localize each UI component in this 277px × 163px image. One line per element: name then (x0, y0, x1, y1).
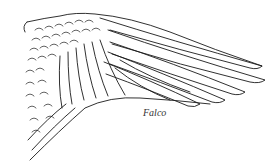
wing-figure: Falco (0, 0, 277, 163)
wing-illustration-icon (0, 0, 277, 163)
figure-caption: Falco (143, 107, 166, 118)
